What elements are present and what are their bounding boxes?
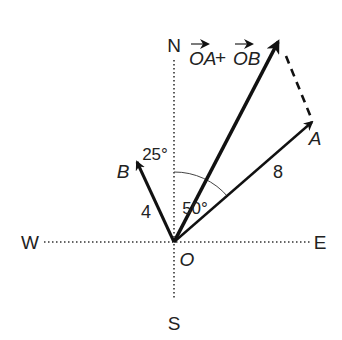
origin-label: O: [180, 249, 195, 270]
vector-oa: [174, 122, 312, 242]
north-label: N: [167, 35, 181, 56]
magnitude-a-label: 8: [273, 162, 283, 182]
south-label: S: [168, 313, 181, 334]
sum-label-plus: +: [215, 47, 226, 68]
east-label: E: [314, 232, 327, 253]
sum-label-oa: OA: [189, 48, 216, 69]
west-label: W: [21, 232, 39, 253]
point-b-label: B: [117, 161, 130, 182]
magnitude-b-label: 4: [141, 202, 151, 222]
parallelogram-dashed-side: [286, 56, 312, 120]
vector-diagram: N S W E O B 25° 4 A 8 50° OA + OB: [0, 0, 342, 340]
sum-label-ob: OB: [233, 48, 261, 69]
sum-label: OA + OB: [189, 44, 261, 69]
angle-a-label: 50°: [182, 199, 208, 218]
angle-b-label: 25°: [142, 145, 168, 164]
point-a-label: A: [308, 128, 322, 149]
